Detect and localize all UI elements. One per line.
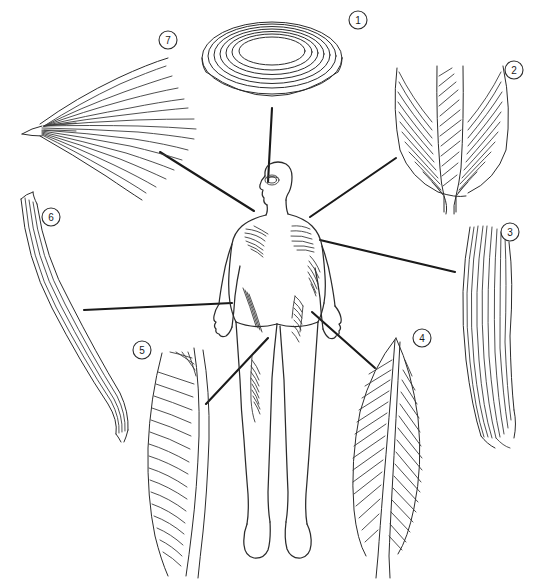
leader-line-3 <box>320 240 455 272</box>
muscle-illustration-3-fusiform <box>463 226 516 448</box>
muscle-illustration-1-circular <box>202 22 342 96</box>
callout-number-5: 5 <box>139 345 145 356</box>
callout-number-3: 3 <box>507 227 513 238</box>
muscle-illustration-4-bipennate <box>353 338 422 578</box>
callout-badge-1[interactable]: 1 <box>349 11 367 29</box>
callout-number-7: 7 <box>165 35 171 46</box>
diagram-canvas: 1234567 <box>0 0 557 579</box>
callout-badges-group: 1234567 <box>42 11 523 359</box>
leader-line-6 <box>84 303 232 310</box>
callout-number-4: 4 <box>419 333 425 344</box>
body-muscle-highlights <box>243 175 320 422</box>
human-body-outline <box>214 162 342 558</box>
callout-number-2: 2 <box>511 65 517 76</box>
callout-badge-7[interactable]: 7 <box>159 31 177 49</box>
callout-number-6: 6 <box>48 212 54 223</box>
muscle-illustration-7-convergent <box>22 58 196 200</box>
callout-badge-6[interactable]: 6 <box>42 208 60 226</box>
muscle-illustration-6-parallel <box>21 192 128 442</box>
leader-line-2 <box>310 158 396 217</box>
leader-line-1 <box>268 108 272 182</box>
callout-badge-4[interactable]: 4 <box>413 329 431 347</box>
callout-badge-3[interactable]: 3 <box>501 223 519 241</box>
callout-badge-2[interactable]: 2 <box>505 61 523 79</box>
callout-number-1: 1 <box>355 15 361 26</box>
callout-badge-5[interactable]: 5 <box>133 341 151 359</box>
muscle-arrangement-diagram: 1234567 <box>0 0 557 579</box>
muscle-illustration-2-multipennate <box>395 66 508 214</box>
leader-line-7 <box>160 152 254 211</box>
muscle-illustration-5-unipennate <box>148 348 209 578</box>
